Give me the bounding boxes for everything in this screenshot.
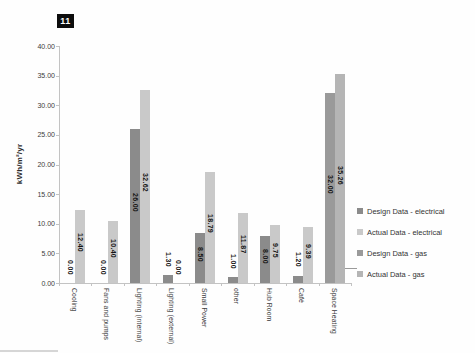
bar-value-label: 0.00 (174, 260, 182, 275)
bar-value-label: 32.00 (326, 175, 334, 194)
bar-value-label: 8.50 (196, 247, 204, 262)
x-axis-category-label: Cooling (71, 288, 78, 312)
bar-value-label: 0.00 (99, 260, 107, 275)
x-tick-mark (124, 283, 125, 286)
x-axis-category-label: Café (298, 288, 305, 303)
bar-value-label: 8.00 (261, 249, 269, 264)
legend-swatch-icon (357, 271, 363, 277)
x-tick-mark (221, 283, 222, 286)
y-axis-title: kWh/m²/yr (15, 144, 24, 184)
legend-swatch-icon (357, 229, 363, 235)
x-axis-category-label: Fans and pumps (103, 288, 110, 340)
bar-value-label: 11.87 (239, 235, 247, 254)
y-axis-tick-label: 30.00 (25, 102, 55, 109)
figure-number-badge: 11 (57, 14, 74, 28)
bar-design-electrical (163, 275, 173, 283)
y-axis-tick-label: 5.00 (25, 250, 55, 257)
x-axis-category-label: Lighting (internal) (136, 288, 143, 342)
y-axis-tick-label: 10.00 (25, 220, 55, 227)
y-axis-tick-label: 15.00 (25, 191, 55, 198)
bar-value-label: 32.62 (141, 173, 149, 192)
legend-item: Actual Data - electrical (357, 227, 445, 237)
legend-label: Design Data - gas (367, 249, 427, 258)
bar-value-label: 1.30 (164, 252, 172, 267)
bar-value-label: 1.00 (229, 254, 237, 269)
scan-smudge (0, 350, 58, 352)
bar-value-label: 26.00 (131, 193, 139, 212)
bar-value-label: 9.75 (271, 243, 279, 258)
x-tick-mark (319, 283, 320, 286)
x-tick-mark (351, 283, 352, 286)
legend-label: Actual Data - electrical (367, 228, 442, 237)
y-axis-tick-label: 40.00 (25, 43, 55, 50)
legend-swatch-icon (357, 208, 363, 214)
bar-value-label: 35.26 (336, 166, 344, 185)
legend-label: Actual Data - gas (367, 270, 425, 279)
y-tick-mark (56, 165, 59, 166)
bar-value-label: 1.20 (294, 252, 302, 267)
x-tick-mark (254, 283, 255, 286)
y-axis-tick-label: 20.00 (25, 161, 55, 168)
chart-figure: 11 kWh/m²/yr Design Data - electricalAct… (0, 0, 475, 353)
x-tick-mark (189, 283, 190, 286)
y-axis-tick-label: 0.00 (25, 280, 55, 287)
bar-value-label: 9.39 (304, 244, 312, 259)
bar-design-electrical (293, 276, 303, 283)
y-tick-mark (56, 253, 59, 254)
x-tick-mark (91, 283, 92, 286)
bar-value-label: 12.40 (76, 233, 84, 252)
legend-swatch-icon (357, 250, 363, 256)
x-axis-category-label: Hub Room (266, 288, 273, 321)
y-tick-mark (56, 76, 59, 77)
bar-value-label: 18.79 (206, 214, 214, 233)
bar-value-label: 0.00 (66, 260, 74, 275)
y-tick-mark (56, 46, 59, 47)
legend-label: Design Data - electrical (367, 207, 445, 216)
x-axis-category-label: Space Heating (331, 288, 338, 334)
stray-mark-line (345, 268, 357, 269)
x-axis-category-label: other (233, 288, 240, 304)
x-axis-category-label: Lighting (external) (168, 288, 175, 344)
legend-item: Actual Data - gas (357, 269, 445, 279)
y-tick-mark (56, 105, 59, 106)
y-tick-mark (56, 224, 59, 225)
y-tick-mark (56, 194, 59, 195)
x-axis-line (59, 283, 352, 284)
x-tick-mark (156, 283, 157, 286)
y-axis-tick-label: 35.00 (25, 72, 55, 79)
x-axis-category-label: Small Power (201, 288, 208, 327)
bar-design-electrical (228, 277, 238, 283)
legend-item: Design Data - electrical (357, 206, 445, 216)
x-tick-mark (286, 283, 287, 286)
x-tick-mark (59, 283, 60, 286)
bar-value-label: 10.40 (109, 239, 117, 258)
y-tick-mark (56, 135, 59, 136)
legend: Design Data - electricalActual Data - el… (357, 206, 445, 290)
legend-item: Design Data - gas (357, 248, 445, 258)
y-axis-line (59, 46, 60, 283)
y-axis-tick-label: 25.00 (25, 131, 55, 138)
